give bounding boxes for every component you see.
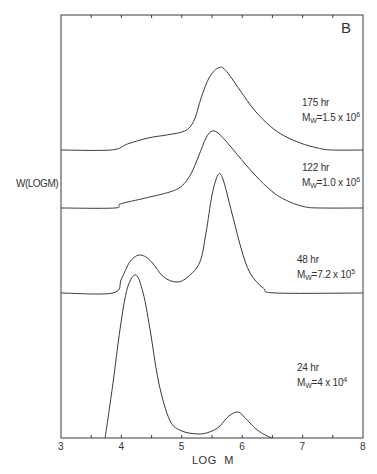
x-tick-label: 7 [300,441,306,452]
chart-plot-area [0,0,377,474]
y-axis-label: W(LOGM) [16,178,58,189]
series-label-175hr: 175 hrMW=1.5 x 106 [302,97,360,127]
x-tick-label: 8 [360,441,366,452]
x-axis-label: LOG M [192,454,234,466]
series-label-122hr: 122 hrMW=1.0 x 106 [302,162,360,192]
series-time: 24 hr [297,362,347,374]
series-mw: MW=7.2 x 105 [297,266,355,284]
curve-24hr [105,275,272,438]
x-tick-label: 6 [239,441,245,452]
x-tick-label: 4 [118,441,124,452]
panel-label: B [341,19,351,36]
series-mw: MW=1.0 x 106 [302,174,360,192]
series-time: 122 hr [302,162,360,174]
series-time: 175 hr [302,97,360,109]
x-tick-label: 5 [179,441,185,452]
series-mw: MW=4 x 104 [297,374,347,392]
series-mw: MW=1.5 x 106 [302,109,360,127]
series-time: 48 hr [297,254,355,266]
x-tick-label: 3 [58,441,64,452]
series-label-48hr: 48 hrMW=7.2 x 105 [297,254,355,284]
series-label-24hr: 24 hrMW=4 x 104 [297,362,347,392]
